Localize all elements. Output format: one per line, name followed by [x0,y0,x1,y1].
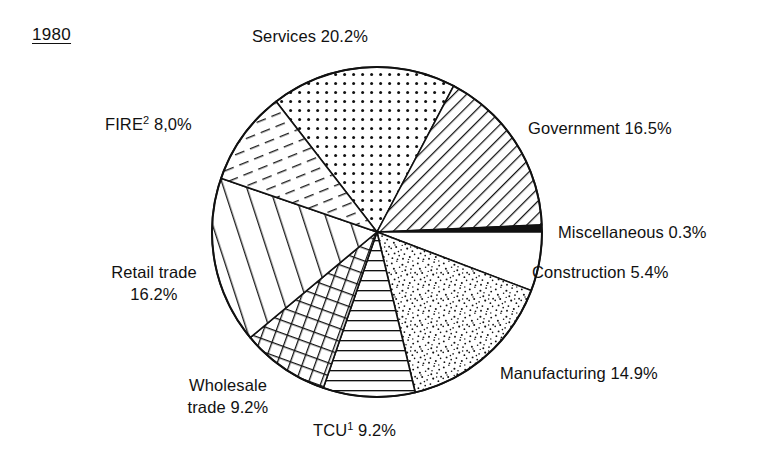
slice-label-fire-text: FIRE [105,115,143,133]
slice-label-fire-value: 8,0% [149,115,192,133]
slice-label-tcu: TCU1 9.2% [313,420,396,442]
slice-label-retail-line2: 16.2% [130,285,177,303]
slice-label-wholesale-line2: trade 9.2% [188,398,269,416]
slice-label-retail-line1: Retail trade [111,263,197,281]
pie-slices-group [212,67,542,397]
slice-label-tcu-value: 9.2% [353,421,396,439]
slice-label-services: Services 20.2% [252,26,368,48]
slice-label-wholesale: Wholesale trade 9.2% [166,375,290,419]
slice-label-wholesale-line1: Wholesale [189,376,267,394]
slice-label-government: Government 16.5% [528,118,672,140]
slice-label-fire: FIRE2 8,0% [105,114,192,136]
slice-label-miscellaneous: Miscellaneous 0.3% [558,222,707,244]
slice-label-retail: Retail trade 16.2% [92,262,216,306]
slice-label-tcu-text: TCU [313,421,347,439]
slice-label-manufacturing: Manufacturing 14.9% [500,363,658,385]
pie-chart-figure: 1980 [0,0,759,467]
slice-label-construction: Construction 5.4% [532,262,669,284]
